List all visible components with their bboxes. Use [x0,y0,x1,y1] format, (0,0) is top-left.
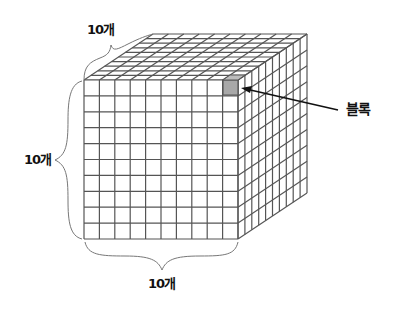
cube-front-face [84,80,238,239]
arrow-head-icon [241,86,252,93]
cube-diagram [0,0,397,309]
top-count-label: 10개 [87,22,114,38]
block-label: 블록 [346,101,370,117]
brace-left-icon [55,81,82,239]
bottom-count-label: 10개 [148,276,175,292]
highlighted-block [223,80,238,95]
cube-side-face [238,34,307,239]
left-count-label: 10개 [24,152,51,168]
brace-bottom-icon [85,242,238,270]
